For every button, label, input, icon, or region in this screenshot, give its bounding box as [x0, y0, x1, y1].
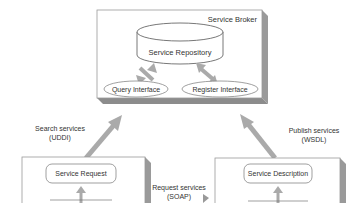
request-services-label: Request services	[152, 184, 206, 192]
search-arrow-icon	[86, 115, 122, 158]
service-request-label: Service Request	[55, 170, 106, 178]
search-services-protocol: (UDDI)	[49, 134, 71, 142]
query-interface-label: Query Interface	[112, 86, 160, 94]
register-interface-label: Register Interface	[192, 86, 247, 94]
diagram-canvas: Service Broker Service Repository Query …	[0, 0, 358, 203]
request-services-protocol: (SOAP)	[167, 193, 191, 201]
request-arrow-icon	[203, 194, 209, 203]
service-description-label: Service Description	[248, 170, 308, 178]
service-broker-title: Service Broker	[208, 15, 258, 24]
publish-arrow-icon	[240, 114, 275, 158]
repository-cylinder-icon	[137, 23, 223, 64]
publish-services-label: Publish services	[289, 127, 340, 134]
search-services-label: Search services	[35, 125, 85, 132]
service-repository-label: Service Repository	[149, 48, 212, 57]
publish-services-protocol: (WSDL)	[302, 136, 327, 144]
